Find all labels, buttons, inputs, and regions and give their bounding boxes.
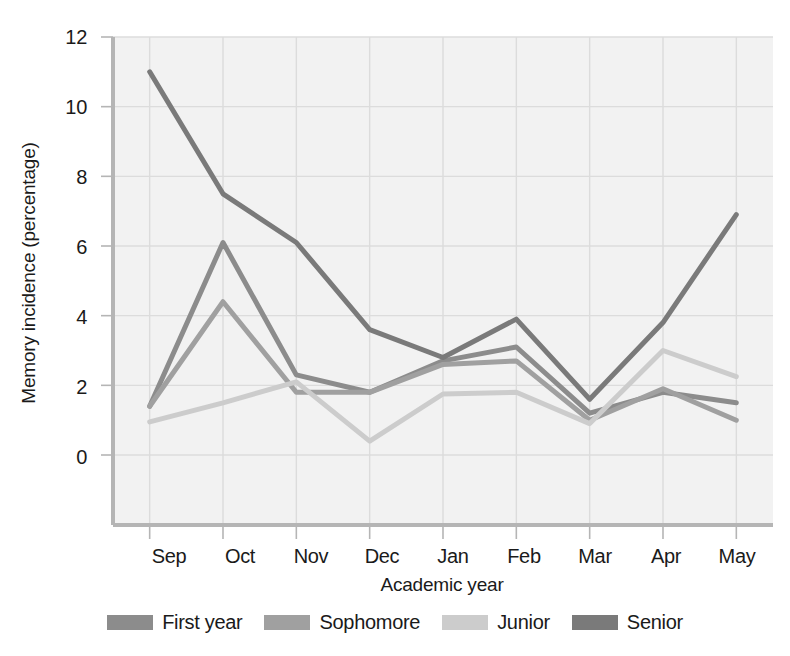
legend-item-first-year[interactable]: First year: [107, 612, 242, 632]
legend-swatch-senior: [572, 615, 618, 630]
chart-figure: Memory incidence (percentage) Academic y…: [0, 0, 790, 656]
legend-label-senior: Senior: [627, 612, 683, 632]
plot-area: [0, 0, 790, 656]
legend-label-sophomore: Sophomore: [319, 612, 420, 632]
legend-item-senior[interactable]: Senior: [572, 612, 683, 632]
legend-swatch-sophomore: [264, 615, 310, 630]
chart-legend: First year Sophomore Junior Senior: [0, 612, 790, 632]
legend-item-junior[interactable]: Junior: [442, 612, 550, 632]
legend-label-junior: Junior: [497, 612, 550, 632]
legend-label-first-year: First year: [162, 612, 242, 632]
legend-swatch-junior: [442, 615, 488, 630]
legend-swatch-first-year: [107, 615, 153, 630]
legend-item-sophomore[interactable]: Sophomore: [264, 612, 420, 632]
